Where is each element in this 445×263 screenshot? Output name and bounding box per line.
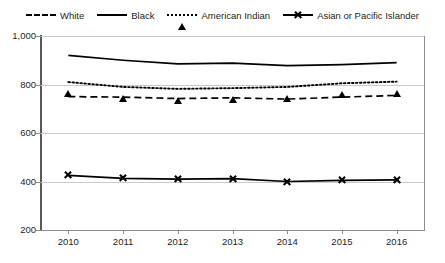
y-axis-tick bbox=[36, 230, 41, 231]
triangle-marker-icon bbox=[167, 9, 197, 21]
x-axis-tick-label: 2015 bbox=[331, 236, 352, 247]
x-axis-tick-label: 2012 bbox=[167, 236, 188, 247]
legend-item-american-indian[interactable]: American Indian bbox=[167, 9, 270, 21]
x-axis-labels: 2010201120122013201420152016 bbox=[41, 236, 424, 256]
legend-label-asian-or-pacific-islander: Asian or Pacific Islander bbox=[317, 10, 419, 21]
x-axis-tick-label: 2014 bbox=[277, 236, 298, 247]
data-point bbox=[393, 73, 401, 91]
data-point bbox=[64, 73, 72, 91]
cross-marker-icon bbox=[283, 9, 313, 21]
x-axis-tick bbox=[342, 230, 343, 234]
legend-label-black: Black bbox=[131, 10, 154, 21]
x-axis-tick-label: 2013 bbox=[222, 236, 243, 247]
data-point bbox=[119, 78, 127, 96]
plot-area bbox=[41, 36, 425, 230]
triangle-marker-icon bbox=[338, 74, 346, 98]
data-point bbox=[229, 79, 237, 97]
line-chart: White Black American Indian Asian or Pac… bbox=[0, 0, 445, 263]
y-axis-tick-label: 400 bbox=[20, 177, 36, 187]
square-marker-icon bbox=[97, 9, 127, 21]
triangle-marker-icon bbox=[393, 73, 401, 97]
data-point bbox=[174, 80, 182, 98]
chart-legend: White Black American Indian Asian or Pac… bbox=[0, 6, 445, 24]
triangle-marker-icon bbox=[283, 78, 291, 102]
legend-item-black[interactable]: Black bbox=[97, 9, 154, 21]
y-axis-tick-label: 200 bbox=[20, 225, 36, 235]
data-point bbox=[283, 78, 291, 96]
data-point bbox=[338, 74, 346, 92]
x-axis-tick bbox=[287, 230, 288, 234]
triangle-marker-icon bbox=[174, 80, 182, 104]
x-axis-tick bbox=[68, 230, 69, 234]
legend-item-asian-or-pacific-islander[interactable]: Asian or Pacific Islander bbox=[283, 9, 419, 21]
y-axis-tick-label: 1,000 bbox=[12, 31, 36, 41]
x-axis-tick bbox=[178, 230, 179, 234]
triangle-marker-icon bbox=[229, 79, 237, 103]
series-markers bbox=[41, 36, 424, 230]
x-axis-tick bbox=[397, 230, 398, 234]
triangle-marker-icon bbox=[64, 73, 72, 97]
y-axis-labels: 1,000800600400200 bbox=[0, 0, 40, 263]
x-axis-tick-label: 2011 bbox=[113, 236, 133, 247]
y-axis-tick-label: 800 bbox=[20, 80, 36, 90]
y-axis-tick-label: 600 bbox=[20, 128, 36, 138]
x-axis-tick-label: 2016 bbox=[386, 236, 407, 247]
triangle-marker-icon bbox=[119, 78, 127, 102]
x-axis-tick bbox=[123, 230, 124, 234]
x-axis-tick bbox=[233, 230, 234, 234]
legend-label-american-indian: American Indian bbox=[201, 10, 270, 21]
legend-label-white: White bbox=[60, 10, 84, 21]
x-axis-tick-label: 2010 bbox=[58, 236, 79, 247]
